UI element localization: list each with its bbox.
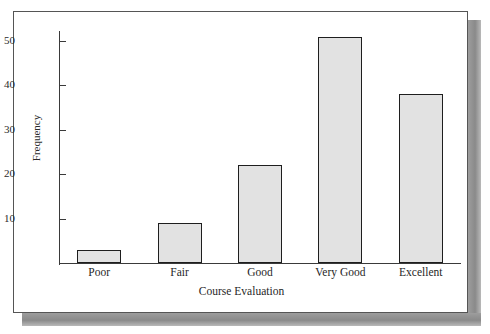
figure-shadow-bottom-edge	[22, 313, 481, 326]
y-axis-tick	[60, 130, 66, 131]
y-axis-tick-label: 50	[0, 35, 15, 46]
y-axis-title: Frequency	[30, 98, 42, 178]
y-axis-tick	[60, 174, 66, 175]
bar-fair	[158, 223, 202, 263]
y-axis-tick-label: 30	[0, 124, 15, 135]
figure-shadow-right-edge	[468, 20, 481, 326]
y-axis-tick	[60, 85, 66, 86]
bar-good	[238, 165, 282, 263]
y-axis-tick-label: 20	[0, 168, 15, 179]
x-axis-tick-label: Excellent	[371, 267, 471, 279]
bar-excellent	[399, 94, 443, 263]
y-axis-tick-label: 10	[0, 213, 15, 224]
x-axis-title: Course Evaluation	[14, 286, 469, 298]
x-axis-line	[59, 263, 461, 264]
y-axis-tick-label: 40	[0, 79, 15, 90]
bar-poor	[77, 250, 121, 263]
y-axis-tick	[60, 41, 66, 42]
y-axis-line	[59, 31, 60, 265]
bar-chart-figure: 5040302010 Frequency PoorFairGoodVery Go…	[0, 0, 490, 334]
bar-very-good	[318, 37, 362, 263]
y-axis-tick	[60, 219, 66, 220]
figure-frame: 5040302010 Frequency PoorFairGoodVery Go…	[13, 11, 468, 313]
